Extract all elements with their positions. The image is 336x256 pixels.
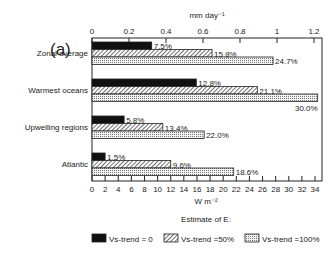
x-axis-label: W m⁻²	[194, 197, 217, 206]
bottom-tick-label: 28	[271, 185, 280, 194]
top-tick-label: 0.4	[160, 27, 172, 36]
bar	[92, 79, 196, 87]
bottom-tick-label: 30	[284, 185, 293, 194]
category-label: Warmest oceans	[28, 86, 88, 95]
bottom-tick-label: 26	[258, 185, 267, 194]
top-tick-label: 1	[275, 27, 280, 36]
bottom-tick-label: 16	[193, 185, 202, 194]
top-tick-label: 0.6	[197, 27, 209, 36]
category-labels: Zonal averageWarmest oceansUpwelling reg…	[25, 49, 89, 169]
bottom-tick-label: 24	[245, 185, 254, 194]
bottom-tick-label: 20	[219, 185, 228, 194]
legend-swatch	[164, 234, 178, 242]
bottom-axis-ticks: 0246810121416182022242628303234	[90, 176, 320, 194]
bottom-tick-label: 32	[297, 185, 306, 194]
top-tick-label: 0	[90, 27, 95, 36]
bottom-tick-label: 10	[153, 185, 162, 194]
bar	[92, 153, 105, 161]
top-axis-label: mm day⁻¹	[189, 11, 224, 20]
category-label: Atlantic	[62, 160, 88, 169]
legend-swatch	[92, 234, 106, 242]
legend-label: Vs-trend =100%	[262, 235, 320, 244]
bar	[92, 94, 318, 102]
bottom-tick-label: 6	[129, 185, 134, 194]
top-tick-label: 0.8	[234, 27, 246, 36]
bottom-tick-label: 18	[206, 185, 215, 194]
legend-swatch	[245, 234, 259, 242]
bar	[92, 168, 234, 176]
top-axis-ticks: 00.20.40.60.811.2	[90, 27, 320, 43]
bar	[92, 131, 204, 139]
top-tick-label: 1.2	[308, 27, 320, 36]
category-label: Zonal average	[37, 49, 89, 58]
legend-title: Estimate of E:	[181, 215, 231, 224]
bar-value-label: 22.0%	[206, 131, 229, 140]
bar	[92, 50, 212, 58]
bar	[92, 42, 152, 50]
bottom-tick-label: 4	[116, 185, 121, 194]
bottom-tick-label: 8	[142, 185, 147, 194]
top-tick-label: 0.2	[123, 27, 135, 36]
category-label: Upwelling regions	[25, 123, 88, 132]
bar	[92, 87, 257, 95]
bottom-tick-label: 22	[232, 185, 241, 194]
legend: Vs-trend = 0Vs-trend =50%Vs-trend =100%	[92, 234, 320, 244]
bar-chart: (a) mm day⁻¹ 00.20.40.60.811.2 Zonal ave…	[0, 0, 336, 256]
bottom-tick-label: 2	[103, 185, 108, 194]
legend-label: Vs-trend = 0	[109, 235, 153, 244]
bottom-tick-label: 0	[90, 185, 95, 194]
bottom-tick-label: 14	[179, 185, 188, 194]
bar	[92, 161, 171, 169]
bar	[92, 124, 163, 132]
bar-value-label: 24.7%	[275, 57, 298, 66]
bar-value-label: 30.0%	[295, 104, 318, 113]
bar	[92, 57, 273, 65]
bar-value-label: 18.6%	[236, 168, 259, 177]
bar	[92, 116, 124, 124]
bars: 7.5%15.8%24.7%12.8%21.1%30.0%5.8%13.4%22…	[92, 42, 318, 177]
bottom-tick-label: 12	[166, 185, 175, 194]
bottom-tick-label: 34	[311, 185, 320, 194]
legend-label: Vs-trend =50%	[181, 235, 234, 244]
